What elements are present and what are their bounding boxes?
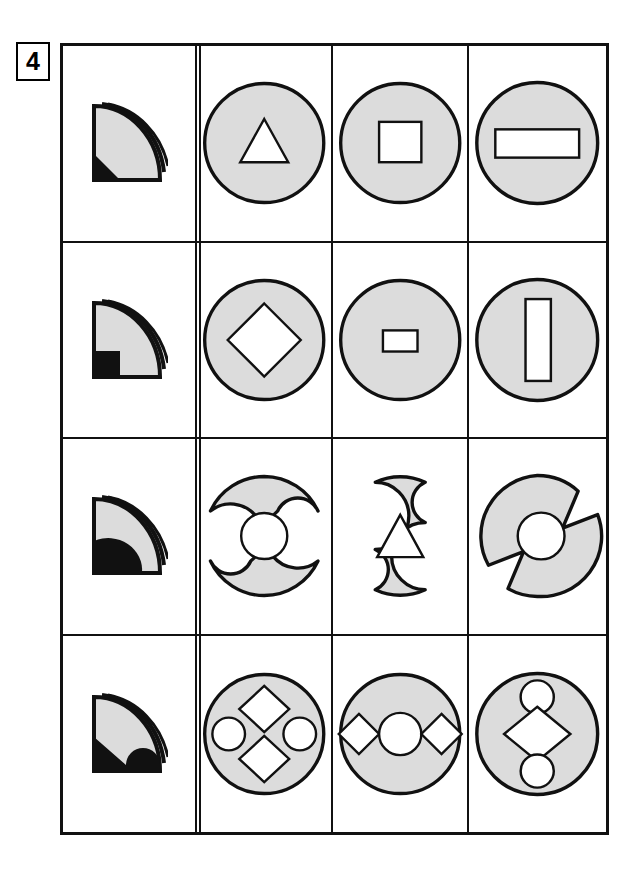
puzzle-row-3 bbox=[63, 439, 606, 636]
circle-notched-left-right-with-triangle-cutout bbox=[333, 466, 467, 606]
cell-r2c2[interactable] bbox=[197, 243, 333, 438]
puzzle-row-2 bbox=[63, 243, 606, 440]
fan-quarter-disc-icon bbox=[90, 299, 168, 381]
cell-r4c4[interactable] bbox=[469, 636, 605, 833]
circle-with-tall-rectangle-cutout bbox=[469, 270, 605, 410]
circle-with-wide-rectangle-cutout bbox=[469, 73, 605, 213]
puzzle-grid bbox=[60, 43, 609, 835]
circle-with-horizontal-diamond-circle-diamond-cutouts bbox=[333, 664, 467, 804]
cell-r4c2[interactable] bbox=[197, 636, 333, 833]
circle-with-square-cutout bbox=[333, 73, 467, 213]
cell-r1c4[interactable] bbox=[469, 46, 605, 241]
cell-r2c3[interactable] bbox=[333, 243, 469, 438]
cell-r3c3[interactable] bbox=[333, 439, 469, 634]
puzzle-row-4 bbox=[63, 636, 606, 833]
cell-r1c3[interactable] bbox=[333, 46, 469, 241]
fan-quarter-disc-icon bbox=[90, 102, 168, 184]
cell-r2c4[interactable] bbox=[469, 243, 605, 438]
circle-wedge-notched-with-circle-cutout bbox=[469, 466, 605, 606]
puzzle-page: 4 bbox=[0, 0, 637, 890]
circle-notched-top-bottom-with-circle-cutout bbox=[197, 466, 331, 606]
puzzle-row-1 bbox=[63, 46, 606, 243]
circle-with-diamond-cutout bbox=[197, 270, 331, 410]
puzzle-number-badge: 4 bbox=[16, 42, 50, 81]
cell-r3c4[interactable] bbox=[469, 439, 605, 634]
cell-r2c1-key[interactable] bbox=[63, 243, 197, 438]
cell-r3c2[interactable] bbox=[197, 439, 333, 634]
circle-with-four-cutouts bbox=[197, 664, 331, 804]
cell-r1c2[interactable] bbox=[197, 46, 333, 241]
cell-r1c1-key[interactable] bbox=[63, 46, 197, 241]
cell-r4c3[interactable] bbox=[333, 636, 469, 833]
circle-with-triangle-cutout bbox=[197, 73, 331, 213]
fan-quarter-disc-icon bbox=[90, 495, 168, 577]
circle-with-vertical-circle-diamond-circle-cutouts bbox=[469, 664, 605, 804]
circle-with-small-rectangle-cutout bbox=[333, 270, 467, 410]
cell-r3c1-key[interactable] bbox=[63, 439, 197, 634]
fan-quarter-disc-icon bbox=[90, 693, 168, 775]
cell-r4c1-key[interactable] bbox=[63, 636, 197, 833]
puzzle-number: 4 bbox=[26, 49, 40, 74]
